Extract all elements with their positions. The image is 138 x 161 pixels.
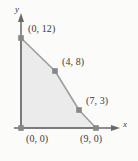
coordinate-plot xyxy=(0,0,138,161)
vertex-label-4-8: (4, 8) xyxy=(62,56,84,67)
vertex-label-7-3: (7, 3) xyxy=(86,95,108,106)
vertex-dot-9-0 xyxy=(93,125,99,131)
shaded-region xyxy=(21,38,96,128)
vertex-dot-4-8 xyxy=(52,68,58,74)
vertex-dot-0-12 xyxy=(18,35,24,41)
y-axis-arrowhead xyxy=(18,13,24,22)
figure-container: (0, 12) (4, 8) (7, 3) (0, 0) (9, 0) x y xyxy=(0,0,138,161)
vertex-label-0-12: (0, 12) xyxy=(28,23,55,34)
x-axis-label: x xyxy=(123,119,127,129)
vertex-dot-7-3 xyxy=(76,107,82,113)
vertex-label-0-0: (0, 0) xyxy=(26,133,48,144)
x-axis-arrowhead xyxy=(111,125,120,131)
vertex-dot-0-0 xyxy=(18,125,24,131)
vertex-label-9-0: (9, 0) xyxy=(80,133,102,144)
y-axis-label: y xyxy=(15,4,19,14)
